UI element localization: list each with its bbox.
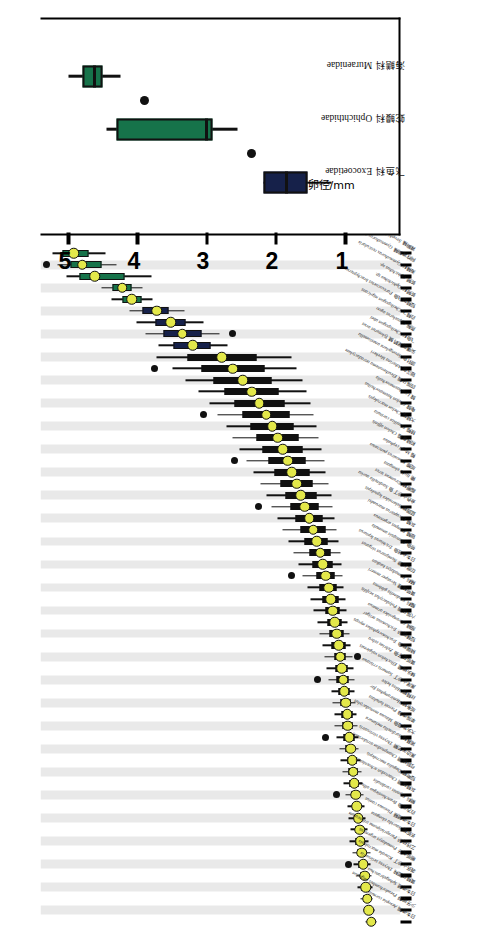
median-marker [89,271,100,282]
boxplot [40,777,400,789]
species-tick [400,920,411,923]
boxplot [40,789,400,801]
boxplot [40,881,400,893]
boxplot [40,593,400,605]
inset-axis-tick-label: 1 [335,247,348,274]
inset-axis-tick-label: 4 [127,247,140,274]
boxplot [40,454,400,466]
boxplot [40,835,400,847]
inset-median-line [93,65,96,87]
median-marker [267,420,278,431]
median-marker [295,490,306,501]
median-marker [151,305,162,316]
median-marker [336,662,347,673]
outlier-point [313,676,320,683]
boxplot [40,443,400,455]
median-marker [272,432,283,443]
outlier-point [230,457,237,464]
median-marker [337,674,348,685]
outlier-point [199,411,206,418]
median-marker [246,386,257,397]
median-marker [317,559,328,570]
boxplot [40,616,400,628]
median-marker [357,858,368,869]
inset-family-label: 海鳝科 Muraenidae [326,58,404,72]
median-marker [216,351,227,362]
median-marker [314,547,325,558]
median-marker [335,651,346,662]
box-iqr [79,272,125,279]
median-marker [327,605,338,616]
inset-family-label: 蛇鳗科 Ophichthidae [320,111,404,125]
boxplot [40,904,400,916]
boxplot [40,524,400,536]
median-marker [333,639,344,650]
median-marker [126,294,137,305]
species-labels: 日本须鳎 Aesopia cornuta少牙斑鲆 Pseudorhombus o… [413,247,501,927]
median-marker [325,593,336,604]
median-marker [116,282,127,293]
median-marker [254,397,265,408]
median-marker [341,709,352,720]
boxplot [40,650,400,662]
inset-axis-tick [205,232,209,244]
outlier-point [229,330,236,337]
median-marker [329,616,340,627]
boxplot [40,685,400,697]
inset-boxplot [40,50,400,102]
boxplot [40,466,400,478]
boxplot [40,431,400,443]
outlier-point [42,261,49,268]
median-marker [320,570,331,581]
inset-axis-tick [343,232,347,244]
outlier-point [333,791,340,798]
median-marker [345,743,356,754]
median-marker [237,374,248,385]
median-marker [351,801,362,812]
median-marker [366,916,377,927]
median-marker [177,328,188,339]
boxplot [40,869,400,881]
boxplot [40,408,400,420]
boxplot [40,397,400,409]
boxplot [40,846,400,858]
boxplot [40,673,400,685]
outlier-point [354,653,361,660]
outlier-point [345,860,352,867]
median-marker [303,513,314,524]
median-marker [350,789,361,800]
median-marker [342,720,353,731]
inset-axis-tick [274,232,278,244]
median-marker [339,686,350,697]
boxplot [40,385,400,397]
median-marker [286,467,297,478]
boxplot [40,282,400,294]
boxplot [40,420,400,432]
median-marker [348,766,359,777]
boxplot [40,570,400,582]
boxplot [40,731,400,743]
figure-root: 日本须鳎 Aesopia cornuta少牙斑鲆 Pseudorhombus o… [0,0,501,927]
outlier-point [151,365,158,372]
median-marker [291,478,302,489]
boxplot [40,293,400,305]
inset-median-line [205,118,208,140]
boxplot [40,374,400,386]
median-marker [331,628,342,639]
boxplot [40,892,400,904]
boxplot [40,581,400,593]
boxplot [40,547,400,559]
median-marker [308,524,319,535]
boxplot [40,316,400,328]
outlier-point [322,733,329,740]
median-marker [76,259,87,270]
boxplot [40,305,400,317]
inset-family-panel: 12345 飞鱼科 Exocoetidae蛇鳗科 Ophichthidae海鳝科… [40,17,400,235]
boxplot [40,754,400,766]
inset-box-iqr [116,118,212,140]
boxplot [40,512,400,524]
median-marker [311,536,322,547]
boxplot [40,812,400,824]
median-marker [323,582,334,593]
inset-axis-tick-label: 3 [196,247,209,274]
